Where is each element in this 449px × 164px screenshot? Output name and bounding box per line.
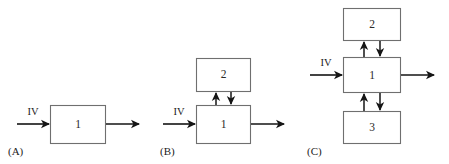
panel-b-box-2-label: 2 [221,68,227,80]
block-diagram-figure: IV 1 (A) 2 [0,0,449,164]
panel-c-upper-arrow-up [360,41,368,57]
panel-a-output-arrow [106,120,140,128]
panel-a: IV 1 (A) [8,106,140,159]
panel-c-lower-arrow-up [360,93,368,111]
panel-c-box-1-label: 1 [369,69,375,81]
panel-c-box-1: 1 [344,58,401,93]
panel-c: 2 IV 1 [307,9,435,159]
panel-c-input-arrow [310,71,343,79]
panel-c-box-2: 2 [344,9,401,41]
panel-b-input-arrow [163,120,196,128]
panel-b-box-1: 1 [197,106,251,144]
panel-b-box-2: 2 [197,59,251,92]
panel-c-box-3-label: 3 [369,121,375,133]
panel-c-input-label: IV [320,57,331,68]
panel-b-output-arrow [251,120,285,128]
panel-a-label: (A) [8,145,24,158]
panel-b-arrow-down [227,92,235,105]
panel-b: 2 IV 1 [160,59,285,159]
panel-b-box-1-label: 1 [221,118,227,130]
panel-b-label: (B) [160,145,175,158]
panel-b-arrow-up [212,92,220,105]
panel-b-input-label: IV [173,106,184,117]
panel-c-output-arrow [401,71,435,79]
panel-c-lower-arrow-down [376,93,384,111]
panel-a-box-1-label: 1 [75,118,81,130]
diagram-canvas: IV 1 (A) 2 [0,0,449,164]
panel-c-label: (C) [307,145,322,158]
panel-c-upper-arrow-down [376,41,384,57]
panel-a-input-label: IV [27,106,38,117]
panel-c-box-2-label: 2 [369,18,375,30]
panel-a-box-1: 1 [51,106,106,144]
panel-a-input-arrow [17,120,50,128]
panel-c-box-3: 3 [344,112,401,144]
